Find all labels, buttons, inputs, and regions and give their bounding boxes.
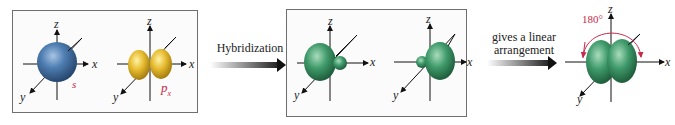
hybrid-left-small-lobe: [333, 56, 347, 70]
axis-label-z: z: [147, 14, 152, 29]
axis-label-z: z: [54, 17, 59, 32]
axis-label-z: z: [608, 2, 613, 17]
hybridization-label: Hybridization: [210, 42, 290, 55]
axis-label-y: y: [113, 90, 118, 105]
axis-label-x: x: [665, 55, 670, 70]
hybridization-arrow: [210, 62, 278, 68]
axis-label-x: x: [189, 57, 194, 72]
px-orbital-left-lobe: [128, 50, 150, 80]
px-orbital-right-lobe: [150, 49, 172, 79]
axis-label-z: z: [328, 14, 333, 29]
px-orbital-label: px: [161, 80, 171, 98]
angle-label: 180°: [582, 13, 603, 25]
hybrid-right-large-lobe: [425, 42, 455, 80]
orbital-diagram-graphics: [0, 0, 675, 125]
axis-label-y: y: [577, 92, 582, 107]
axis-label-x: x: [467, 55, 472, 70]
axis-label-z: z: [426, 12, 431, 27]
linear-right-lobe: [607, 39, 637, 83]
hybrid-left-large-lobe: [304, 43, 336, 81]
axis-label-x: x: [92, 57, 97, 72]
axis-label-y: y: [393, 88, 398, 103]
linear-arrangement-arrow: [487, 60, 549, 66]
axis-label-x: x: [370, 55, 375, 70]
axis-label-y: y: [20, 90, 25, 105]
linear-arrangement-label: gives a linear arrangement: [484, 31, 564, 57]
s-orbital-label: s: [72, 78, 76, 90]
axis-label-y: y: [294, 88, 299, 103]
